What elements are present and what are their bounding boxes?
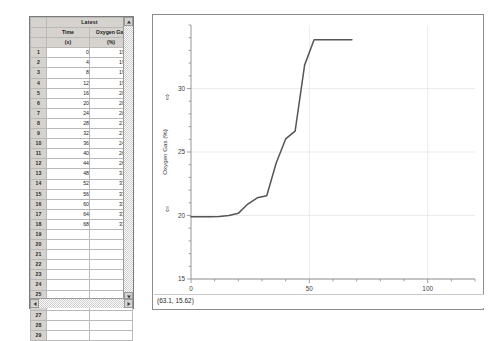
- cell-time[interactable]: [47, 250, 90, 260]
- graph-plot[interactable]: 15202530050100Oxygen Gas (%)⇧⇩Time (s)⟸⟹: [153, 15, 483, 309]
- cell-oxygen[interactable]: [90, 320, 133, 330]
- table-row[interactable]: 93221.56: [31, 129, 133, 139]
- cell-time[interactable]: 60: [47, 199, 90, 209]
- table-row[interactable]: 103624.13: [31, 139, 133, 149]
- cell-time[interactable]: 4: [47, 58, 90, 68]
- cell-time[interactable]: 48: [47, 169, 90, 179]
- row-number[interactable]: 22: [31, 260, 47, 270]
- cell-time[interactable]: 24: [47, 108, 90, 118]
- cell-time[interactable]: 56: [47, 189, 90, 199]
- row-number[interactable]: 11: [31, 149, 47, 159]
- table-vertical-scroll-track[interactable]: [124, 26, 133, 292]
- cell-time[interactable]: 8: [47, 68, 90, 78]
- cell-time[interactable]: 32: [47, 129, 90, 139]
- row-number[interactable]: 17: [31, 209, 47, 219]
- cell-time[interactable]: 12: [47, 78, 90, 88]
- scroll-right-button[interactable]: [124, 299, 133, 308]
- row-number[interactable]: 18: [31, 219, 47, 229]
- row-number[interactable]: 10: [31, 139, 47, 149]
- table-row[interactable]: 155633.84: [31, 189, 133, 199]
- row-number[interactable]: 3: [31, 68, 47, 78]
- row-number[interactable]: 6: [31, 98, 47, 108]
- cell-time[interactable]: [47, 310, 90, 320]
- cell-time[interactable]: 0: [47, 48, 90, 58]
- table-row[interactable]: 82821.39: [31, 118, 133, 128]
- scroll-up-button[interactable]: [124, 17, 133, 26]
- row-number[interactable]: 21: [31, 250, 47, 260]
- table-horizontal-scrollbar[interactable]: [30, 298, 133, 308]
- cell-oxygen[interactable]: [90, 310, 133, 320]
- table-vertical-scrollbar[interactable]: [123, 17, 133, 301]
- table-row[interactable]: 1019.90: [31, 48, 133, 58]
- row-number[interactable]: 19: [31, 229, 47, 239]
- cell-time[interactable]: [47, 320, 90, 330]
- table-corner-cell[interactable]: [31, 18, 47, 28]
- cell-time[interactable]: 16: [47, 88, 90, 98]
- table-row[interactable]: 20: [31, 240, 133, 250]
- table-horizontal-scroll-track[interactable]: [39, 299, 124, 308]
- table-row[interactable]: 22: [31, 260, 133, 270]
- row-number[interactable]: 14: [31, 179, 47, 189]
- table-row[interactable]: 176433.84: [31, 209, 133, 219]
- cell-time[interactable]: 64: [47, 209, 90, 219]
- y-axis-scroll-down-arrow-icon[interactable]: ⇩: [164, 205, 171, 214]
- cell-time[interactable]: [47, 270, 90, 280]
- table-row[interactable]: 23: [31, 270, 133, 280]
- row-number[interactable]: 28: [31, 320, 47, 330]
- table-row[interactable]: 21: [31, 250, 133, 260]
- row-number[interactable]: 16: [31, 199, 47, 209]
- row-number[interactable]: 12: [31, 159, 47, 169]
- row-number[interactable]: 9: [31, 129, 47, 139]
- row-number[interactable]: 24: [31, 280, 47, 290]
- row-number[interactable]: 20: [31, 240, 47, 250]
- cell-time[interactable]: [47, 229, 90, 239]
- row-number[interactable]: 8: [31, 118, 47, 128]
- column-header-time[interactable]: Time: [47, 28, 90, 38]
- row-number[interactable]: 4: [31, 78, 47, 88]
- row-number[interactable]: 5: [31, 88, 47, 98]
- row-number[interactable]: 2: [31, 58, 47, 68]
- table-row[interactable]: 51620.00: [31, 88, 133, 98]
- row-number[interactable]: 15: [31, 189, 47, 199]
- cell-time[interactable]: 20: [47, 98, 90, 108]
- cell-time[interactable]: 52: [47, 179, 90, 189]
- row-number[interactable]: 1: [31, 48, 47, 58]
- cell-oxygen[interactable]: [90, 330, 133, 340]
- table-row[interactable]: 124426.65: [31, 159, 133, 169]
- cell-time[interactable]: [47, 330, 90, 340]
- cell-time[interactable]: 68: [47, 219, 90, 229]
- scroll-left-button[interactable]: [30, 299, 39, 308]
- cell-time[interactable]: 28: [47, 118, 90, 128]
- row-number[interactable]: 23: [31, 270, 47, 280]
- table-row[interactable]: 2419.90: [31, 58, 133, 68]
- data-table[interactable]: Latest Time Oxygen Gas (s) (%) 1019.9024…: [30, 17, 133, 341]
- data-series-line[interactable]: [191, 40, 352, 217]
- cell-time[interactable]: [47, 260, 90, 270]
- cell-time[interactable]: 40: [47, 149, 90, 159]
- table-row[interactable]: 166033.84: [31, 199, 133, 209]
- table-row[interactable]: 114026.03: [31, 149, 133, 159]
- data-table-body[interactable]: 1019.902419.903819.9041219.9251620.00620…: [31, 48, 133, 341]
- row-number[interactable]: 7: [31, 108, 47, 118]
- cell-time[interactable]: [47, 280, 90, 290]
- table-row[interactable]: 145233.84: [31, 179, 133, 189]
- table-row[interactable]: 134831.84: [31, 169, 133, 179]
- row-number[interactable]: 27: [31, 310, 47, 320]
- cell-time[interactable]: 44: [47, 159, 90, 169]
- row-number[interactable]: 29: [31, 330, 47, 340]
- cell-time[interactable]: [47, 240, 90, 250]
- row-number[interactable]: 13: [31, 169, 47, 179]
- table-title-latest[interactable]: Latest: [47, 18, 133, 28]
- y-axis-scroll-up-arrow-icon[interactable]: ⇧: [164, 93, 171, 102]
- table-row[interactable]: 186833.84: [31, 219, 133, 229]
- table-row[interactable]: 29: [31, 330, 133, 340]
- cell-time[interactable]: 36: [47, 139, 90, 149]
- data-table-panel[interactable]: Latest Time Oxygen Gas (s) (%) 1019.9024…: [29, 16, 134, 309]
- table-row[interactable]: 27: [31, 310, 133, 320]
- table-row[interactable]: 19: [31, 229, 133, 239]
- table-row[interactable]: 3819.90: [31, 68, 133, 78]
- table-row[interactable]: 62020.17: [31, 98, 133, 108]
- table-row[interactable]: 28: [31, 320, 133, 330]
- graph-panel[interactable]: 15202530050100Oxygen Gas (%)⇧⇩Time (s)⟸⟹…: [152, 14, 484, 310]
- table-row[interactable]: 41219.92: [31, 78, 133, 88]
